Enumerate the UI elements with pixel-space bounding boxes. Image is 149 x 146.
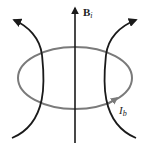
magnetic-field-diagram: Bi Ib [0,0,149,146]
left-field-line [12,20,44,138]
field-label: Bi [83,6,93,20]
current-direction-arrow-icon [108,98,117,104]
current-label: Ib [118,104,127,118]
